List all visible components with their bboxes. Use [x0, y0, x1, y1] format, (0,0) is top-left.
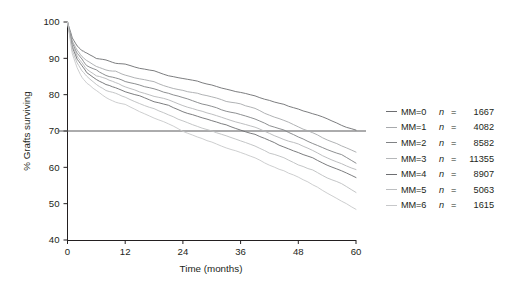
legend-n-value: 8907 — [458, 169, 494, 179]
legend-line-swatch — [386, 127, 397, 128]
y-tick-label: 40 — [49, 234, 60, 245]
y-tick-label: 60 — [49, 162, 60, 173]
legend-item-mm-6[interactable]: MM=6n=1615 — [386, 198, 504, 214]
y-tick-label: 80 — [49, 89, 60, 100]
legend-item-mm-5[interactable]: MM=5n=5063 — [386, 182, 504, 198]
y-tick-label: 100 — [43, 16, 59, 27]
legend-series-label: MM=3 — [401, 154, 439, 164]
legend-item-mm-0[interactable]: MM=0n=1667 — [386, 104, 504, 120]
x-tick-label: 36 — [235, 246, 246, 257]
x-tick-label: 0 — [65, 246, 70, 257]
legend-equals-sign: = — [451, 200, 458, 210]
legend-series-label: MM=0 — [401, 107, 439, 117]
legend-series-label: MM=1 — [401, 122, 439, 132]
legend-equals-sign: = — [451, 122, 458, 132]
legend-series-label: MM=2 — [401, 138, 439, 148]
legend-n-symbol: n — [439, 169, 451, 179]
y-tick-label: 90 — [49, 53, 60, 64]
legend-line-swatch — [386, 189, 397, 190]
legend-line-swatch — [386, 158, 397, 159]
legend-equals-sign: = — [451, 107, 458, 117]
x-axis-label: Time (months) — [180, 263, 243, 274]
legend-n-symbol: n — [439, 200, 451, 210]
legend-n-symbol: n — [439, 185, 451, 195]
legend-series-label: MM=6 — [401, 200, 439, 210]
legend-n-symbol: n — [439, 122, 451, 132]
legend-item-mm-3[interactable]: MM=3n=11355 — [386, 151, 504, 167]
x-tick-label: 60 — [351, 246, 362, 257]
chart-legend: MM=0n=1667MM=1n=4082MM=2n=8582MM=3n=1135… — [386, 104, 504, 213]
legend-n-value: 5063 — [458, 185, 494, 195]
legend-n-value: 8582 — [458, 138, 494, 148]
x-tick-label: 12 — [120, 246, 131, 257]
x-tick-group: 01224364860 — [65, 240, 362, 257]
legend-line-swatch — [386, 174, 397, 175]
legend-n-value: 11355 — [458, 154, 494, 164]
legend-n-value: 4082 — [458, 122, 494, 132]
survival-chart-figure: 405060708090100 01224364860 % Grafts sur… — [0, 0, 509, 288]
legend-line-swatch — [386, 142, 397, 143]
legend-n-symbol: n — [439, 107, 451, 117]
legend-n-value: 1615 — [458, 200, 494, 210]
survival-curve-mm-6 — [68, 22, 357, 209]
survival-curve-mm-3 — [68, 22, 357, 170]
y-tick-label: 50 — [49, 198, 60, 209]
legend-item-mm-1[interactable]: MM=1n=4082 — [386, 120, 504, 136]
legend-equals-sign: = — [451, 169, 458, 179]
series-group — [68, 22, 357, 209]
x-tick-label: 48 — [293, 246, 304, 257]
legend-n-value: 1667 — [458, 107, 494, 117]
legend-line-swatch — [386, 205, 397, 206]
survival-curve-mm-5 — [68, 22, 357, 192]
legend-n-symbol: n — [439, 154, 451, 164]
legend-item-mm-4[interactable]: MM=4n=8907 — [386, 166, 504, 182]
legend-series-label: MM=4 — [401, 169, 439, 179]
x-tick-label: 24 — [178, 246, 189, 257]
legend-line-swatch — [386, 111, 397, 112]
legend-n-symbol: n — [439, 138, 451, 148]
legend-item-mm-2[interactable]: MM=2n=8582 — [386, 135, 504, 151]
y-axis-label: % Grafts surviving — [21, 91, 32, 171]
legend-equals-sign: = — [451, 138, 458, 148]
legend-equals-sign: = — [451, 154, 458, 164]
survival-curve-mm-1 — [68, 22, 357, 152]
legend-equals-sign: = — [451, 185, 458, 195]
legend-series-label: MM=5 — [401, 185, 439, 195]
